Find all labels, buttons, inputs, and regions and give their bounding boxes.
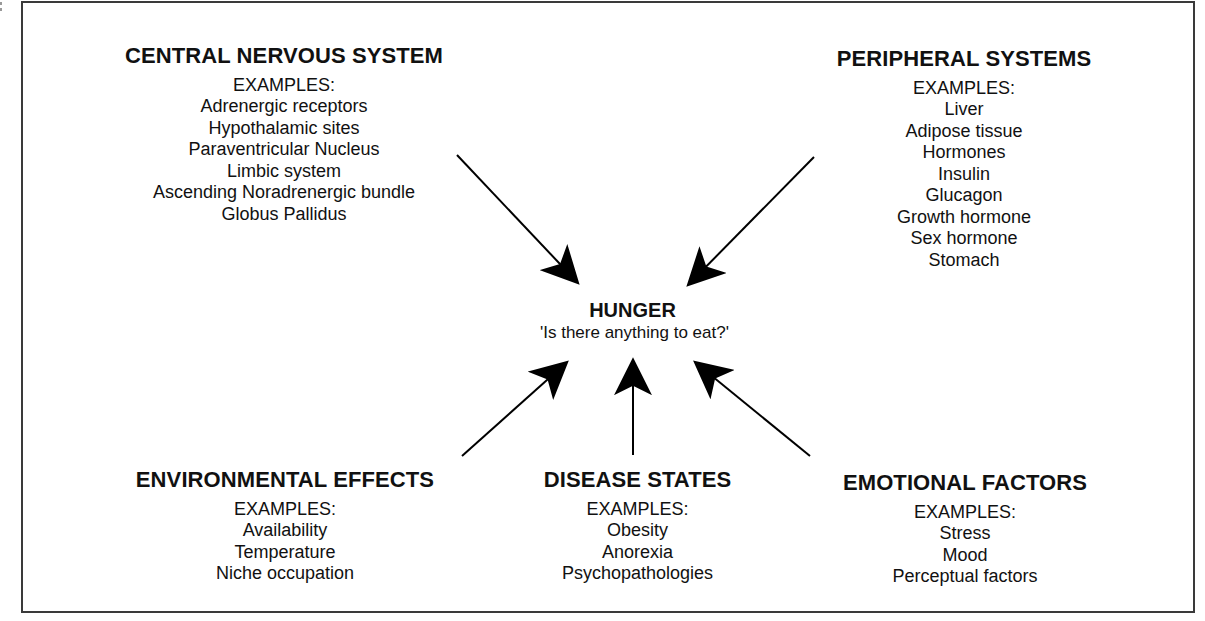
group-title: ENVIRONMENTAL EFFECTS	[110, 467, 460, 493]
example-item: Globus Pallidus	[100, 204, 468, 226]
group-title: CENTRAL NERVOUS SYSTEM	[100, 43, 468, 69]
group-title: PERIPHERAL SYSTEMS	[812, 46, 1116, 72]
arrow-cns-to-hunger	[457, 155, 577, 282]
example-item: Perceptual factors	[820, 566, 1110, 588]
example-item: Availability	[110, 520, 460, 542]
example-item: Hypothalamic sites	[100, 118, 468, 140]
examples-label: EXAMPLES:	[812, 78, 1116, 99]
group-peripheral-systems: PERIPHERAL SYSTEMS EXAMPLES: Liver Adipo…	[812, 46, 1116, 271]
center-subtitle: 'Is there anything to eat?'	[540, 322, 725, 344]
example-item: Glucagon	[812, 185, 1116, 207]
group-central-nervous-system: CENTRAL NERVOUS SYSTEM EXAMPLES: Adrener…	[100, 43, 468, 225]
example-item: Growth hormone	[812, 207, 1116, 229]
example-item: Adrenergic receptors	[100, 96, 468, 118]
example-item: Liver	[812, 99, 1116, 121]
examples-label: EXAMPLES:	[820, 502, 1110, 523]
group-environmental-effects: ENVIRONMENTAL EFFECTS EXAMPLES: Availabi…	[110, 467, 460, 585]
group-emotional-factors: EMOTIONAL FACTORS EXAMPLES: Stress Mood …	[820, 470, 1110, 588]
example-item: Hormones	[812, 142, 1116, 164]
example-item: Niche occupation	[110, 563, 460, 585]
example-item: Sex hormone	[812, 228, 1116, 250]
arrow-emotional-to-hunger	[696, 363, 810, 456]
example-item: Mood	[820, 545, 1110, 567]
example-item: Insulin	[812, 164, 1116, 186]
arrow-peripheral-to-hunger	[689, 157, 814, 284]
center-title: HUNGER	[540, 298, 725, 322]
example-item: Anorexia	[520, 542, 755, 564]
examples-label: EXAMPLES:	[110, 499, 460, 520]
arrow-environmental-to-hunger	[462, 363, 566, 456]
example-item: Stress	[820, 523, 1110, 545]
example-item: Psychopathologies	[520, 563, 755, 585]
examples-label: EXAMPLES:	[520, 499, 755, 520]
example-item: Obesity	[520, 520, 755, 542]
center-node-hunger: HUNGER 'Is there anything to eat?'	[540, 298, 725, 344]
example-item: Limbic system	[100, 161, 468, 183]
examples-label: EXAMPLES:	[100, 75, 468, 96]
example-item: Temperature	[110, 542, 460, 564]
example-item: Adipose tissue	[812, 121, 1116, 143]
example-item: Paraventricular Nucleus	[100, 139, 468, 161]
group-title: DISEASE STATES	[520, 467, 755, 493]
example-item: Stomach	[812, 250, 1116, 272]
group-title: EMOTIONAL FACTORS	[820, 470, 1110, 496]
group-disease-states: DISEASE STATES EXAMPLES: Obesity Anorexi…	[520, 467, 755, 585]
example-item: Ascending Noradrenergic bundle	[100, 182, 468, 204]
